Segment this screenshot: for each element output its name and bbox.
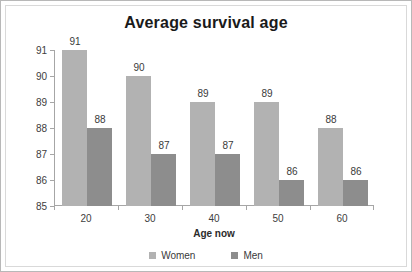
legend-swatch-icon bbox=[231, 252, 238, 259]
y-axis-tick-label: 86 bbox=[36, 175, 47, 186]
x-axis-tick bbox=[182, 206, 183, 210]
bar-value-label: 87 bbox=[147, 140, 181, 151]
bar-value-label: 89 bbox=[186, 88, 220, 99]
bar-value-label: 86 bbox=[275, 166, 309, 177]
y-axis-tick-label: 91 bbox=[36, 45, 47, 56]
bar-women[interactable] bbox=[254, 102, 279, 206]
y-axis-tick-label: 88 bbox=[36, 123, 47, 134]
bar-value-label: 88 bbox=[83, 114, 117, 125]
bar-value-label: 91 bbox=[58, 36, 92, 47]
bar-value-label: 89 bbox=[250, 88, 284, 99]
legend-label: Men bbox=[243, 250, 262, 261]
legend-swatch-icon bbox=[149, 252, 156, 259]
y-axis-tick-label: 87 bbox=[36, 149, 47, 160]
x-axis-category-label: 20 bbox=[54, 213, 118, 224]
x-axis-category-label: 30 bbox=[118, 213, 182, 224]
bar-women[interactable] bbox=[190, 102, 215, 206]
bar-women[interactable] bbox=[62, 50, 87, 206]
bar-group: 908730 bbox=[118, 50, 182, 206]
x-axis-tick bbox=[373, 206, 374, 210]
chart-title: Average survival age bbox=[6, 14, 406, 32]
x-axis-category-label: 50 bbox=[246, 213, 310, 224]
bar-group: 898650 bbox=[246, 50, 310, 206]
bar-group: 918820 bbox=[54, 50, 118, 206]
chart-legend: WomenMen bbox=[6, 250, 406, 261]
legend-item[interactable]: Women bbox=[149, 250, 195, 261]
bar-men[interactable] bbox=[87, 128, 112, 206]
x-axis-tick bbox=[246, 206, 247, 210]
bar-men[interactable] bbox=[151, 154, 176, 206]
x-axis-category-label: 60 bbox=[310, 213, 374, 224]
y-axis-tick-label: 85 bbox=[36, 201, 47, 212]
x-axis-title: Age now bbox=[54, 228, 374, 239]
bar-value-label: 86 bbox=[339, 166, 373, 177]
legend-item[interactable]: Men bbox=[231, 250, 262, 261]
x-axis-category-label: 40 bbox=[182, 213, 246, 224]
chart-container: Average survival age 91908988878685 9188… bbox=[0, 0, 412, 272]
x-axis-tick bbox=[54, 206, 55, 210]
x-axis-tick bbox=[118, 206, 119, 210]
bar-value-label: 88 bbox=[314, 114, 348, 125]
y-axis-tick-label: 89 bbox=[36, 97, 47, 108]
bar-men[interactable] bbox=[215, 154, 240, 206]
bar-men[interactable] bbox=[343, 180, 368, 206]
bar-value-label: 87 bbox=[211, 140, 245, 151]
chart-plot-frame: Average survival age 91908988878685 9188… bbox=[5, 5, 407, 267]
bar-group: 898740 bbox=[182, 50, 246, 206]
plot-area: 91908988878685 9188209087308987408986508… bbox=[54, 50, 374, 206]
bar-value-label: 90 bbox=[122, 62, 156, 73]
y-axis-tick-label: 90 bbox=[36, 71, 47, 82]
bar-men[interactable] bbox=[279, 180, 304, 206]
bar-group: 888660 bbox=[310, 50, 374, 206]
legend-label: Women bbox=[161, 250, 195, 261]
x-axis-tick bbox=[310, 206, 311, 210]
